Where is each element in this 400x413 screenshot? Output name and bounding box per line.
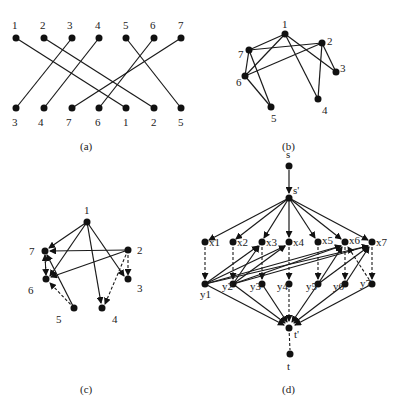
panel-a-bottom-nodes <box>13 105 185 112</box>
panel-d: s s' x1 x2 x3 x4 x5 x6 x7 y1 y2 y3 y4 y5… <box>200 148 388 396</box>
node-label: 4 <box>95 19 101 31</box>
node-t-prime <box>286 325 293 332</box>
node-label: 1 <box>123 116 129 128</box>
node-label: 6 <box>150 19 156 31</box>
sink-prime-label: t' <box>294 328 299 340</box>
node-label: 6 <box>236 76 242 88</box>
y-label: y3 <box>250 280 262 292</box>
node-label: 7 <box>29 245 35 257</box>
x-label: x6 <box>349 234 361 246</box>
node-label: 3 <box>340 62 346 74</box>
node-label: 4 <box>112 313 118 325</box>
node-label: 3 <box>12 116 18 128</box>
node-label: 5 <box>178 116 184 128</box>
panel-d-labels: s s' x1 x2 x3 x4 x5 x6 x7 y1 y2 y3 y4 y5… <box>200 148 388 372</box>
source-prime-label: s' <box>293 184 299 196</box>
y-label: y7 <box>360 277 372 289</box>
source-label: s <box>286 148 290 160</box>
node-label: 1 <box>84 204 90 216</box>
x-label: x7 <box>376 236 388 248</box>
panel-a: 1 2 3 4 5 6 7 3 4 7 6 1 2 5 (a) <box>12 19 185 153</box>
panel-b-nodes <box>242 31 340 111</box>
node-s-prime <box>286 195 293 202</box>
node-label: 2 <box>40 19 46 31</box>
y-label: y4 <box>277 280 289 292</box>
panel-c-edges <box>45 222 128 308</box>
sink-label: t <box>287 360 290 372</box>
node-label: 7 <box>238 48 244 60</box>
node-label: 5 <box>123 19 129 31</box>
node-label: 3 <box>67 19 73 31</box>
node-t <box>287 351 294 358</box>
node-label: 1 <box>282 18 288 30</box>
panel-a-top-nodes <box>13 35 185 42</box>
y-label: y2 <box>222 280 233 292</box>
x-label: x4 <box>293 236 305 248</box>
panel-a-edges <box>16 38 181 108</box>
node-label: 6 <box>95 116 101 128</box>
panel-a-caption: (a) <box>80 140 93 153</box>
panel-b: 1 2 3 4 5 6 7 (b) <box>236 18 346 153</box>
node-label: 5 <box>56 313 62 325</box>
node-label: 5 <box>271 112 277 124</box>
x-label: x1 <box>209 236 220 248</box>
node-label: 7 <box>66 116 72 128</box>
y-label: y5 <box>306 280 318 292</box>
node-label: 2 <box>327 35 333 47</box>
node-label: 4 <box>322 104 328 116</box>
node-label: 2 <box>137 244 143 256</box>
figure-canvas: 1 2 3 4 5 6 7 3 4 7 6 1 2 5 (a) <box>0 0 400 413</box>
y-label: y6 <box>333 280 345 292</box>
x-label: x5 <box>322 234 334 246</box>
x-label: x2 <box>237 236 248 248</box>
panel-d-caption: (d) <box>282 383 295 396</box>
node-s <box>286 163 293 170</box>
node-label: 3 <box>137 282 143 294</box>
x-label: x3 <box>266 236 278 248</box>
panel-a-top-labels: 1 2 3 4 5 6 7 <box>12 19 184 31</box>
y-label: y1 <box>200 288 211 300</box>
panel-c-caption: (c) <box>80 383 93 396</box>
panel-b-labels: 1 2 3 4 5 6 7 <box>236 18 346 124</box>
panel-a-bottom-labels: 3 4 7 6 1 2 5 <box>12 116 184 128</box>
node-label: 6 <box>28 284 34 296</box>
node-label: 1 <box>12 19 18 31</box>
node-label: 2 <box>151 116 157 128</box>
node-label: 4 <box>38 116 44 128</box>
node-label: 7 <box>178 19 184 31</box>
panel-c: 1 2 3 4 5 6 7 (c) <box>28 204 143 396</box>
